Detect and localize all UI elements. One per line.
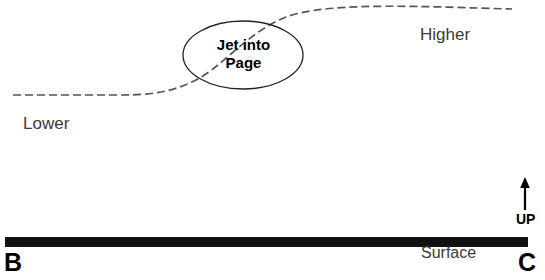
label-jet-line1: Jet into (196, 36, 291, 54)
label-endpoint-c: C (518, 248, 536, 277)
label-up: UP (516, 211, 535, 227)
up-arrow-icon (520, 177, 530, 210)
label-lower: Lower (23, 114, 69, 134)
label-higher: Higher (420, 25, 470, 45)
label-jet-into-page: Jet into Page (196, 36, 291, 72)
label-jet-line2: Page (196, 54, 291, 72)
label-endpoint-b: B (4, 248, 22, 277)
label-surface: Surface (421, 244, 476, 262)
figure-canvas: Lower Higher Jet into Page Surface UP B … (0, 0, 545, 280)
